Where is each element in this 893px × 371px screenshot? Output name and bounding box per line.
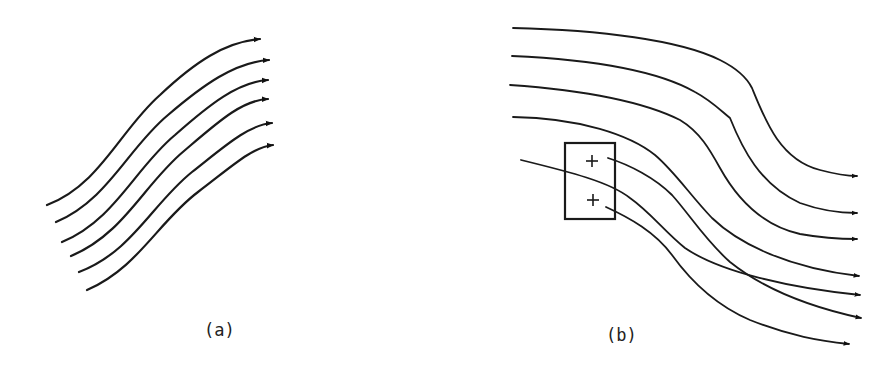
streamline-b-7 [606,207,849,344]
streamline-a-5 [79,123,272,272]
panel-b: (b) [510,28,861,345]
panel-a-label: (a) [204,320,235,340]
panel-a-streamlines [47,39,273,290]
panel-b-label: (b) [606,325,637,345]
figure: (a) [0,0,893,371]
streamline-b-5 [521,160,860,295]
streamline-b-2 [512,56,857,213]
figure-canvas: (a) [0,0,893,371]
plus-marker-bottom [587,194,599,206]
panel-b-streamlines [510,28,861,344]
streamline-a-4 [71,99,268,256]
streamline-a-1 [47,39,260,205]
panel-a: (a) [47,39,273,340]
streamline-b-3 [510,85,857,239]
plus-marker-top [586,155,598,167]
streamline-a-2 [56,60,269,222]
streamline-a-6 [87,145,273,290]
